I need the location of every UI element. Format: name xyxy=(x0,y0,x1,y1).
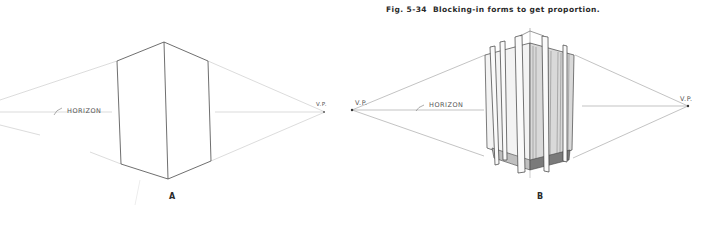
panel-b-vp-right-point xyxy=(687,105,689,107)
panel-a-horizon-label: HORIZON xyxy=(67,107,101,115)
panel-b-vp-left-point xyxy=(351,109,353,111)
panel-b-horizon-label: HORIZON xyxy=(429,101,463,109)
panel-b-label: B xyxy=(537,192,543,201)
panel-a-vp-right-point xyxy=(323,111,325,113)
panel-b-vp-left-label: V.P. xyxy=(355,99,368,107)
panel-a-construction-lines xyxy=(0,61,325,205)
panel-a-vp-right-label: V.P. xyxy=(316,101,327,107)
panel-b-vp-right-label: V.P. xyxy=(680,95,693,103)
panel-a-label: A xyxy=(169,192,175,201)
panel-a-drawing xyxy=(0,42,325,205)
panel-b-drawing xyxy=(351,28,689,178)
panel-b-box xyxy=(485,28,574,178)
panel-a-horizon-leader xyxy=(54,108,62,115)
panel-a-box xyxy=(117,42,211,179)
